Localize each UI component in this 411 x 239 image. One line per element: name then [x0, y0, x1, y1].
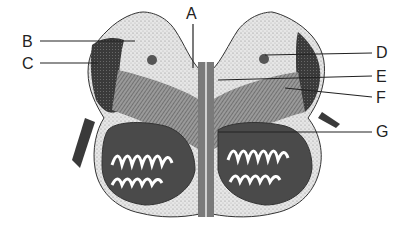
right-half	[212, 12, 340, 217]
midline-raphe	[198, 62, 214, 217]
label-c: C	[22, 56, 34, 72]
anatomy-diagram	[0, 0, 411, 239]
label-b: B	[22, 34, 33, 50]
label-e: E	[376, 69, 387, 85]
left-half	[72, 12, 200, 217]
label-g: G	[376, 124, 388, 140]
label-f: F	[376, 90, 386, 106]
label-a: A	[186, 6, 197, 22]
label-d: D	[376, 45, 388, 61]
